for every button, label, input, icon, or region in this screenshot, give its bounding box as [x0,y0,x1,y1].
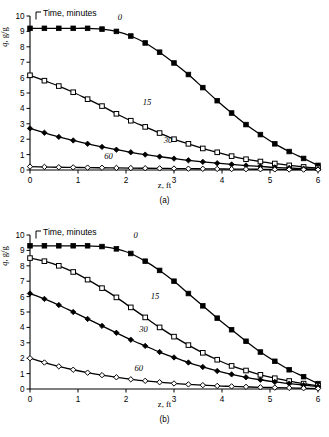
y-tick-label-a: 9 [20,27,25,36]
data-point-30-b [171,355,176,360]
legend-title-b: Time, minutes [43,227,97,237]
data-point-0-b [71,243,76,248]
data-point-60-a [56,165,61,170]
data-point-30-a [143,152,148,157]
data-point-0-b [301,374,306,379]
data-point-0-a [71,26,76,31]
data-point-0-a [273,142,278,147]
data-point-15-b [186,343,191,348]
x-axis-label-a: z, ft [0,180,329,190]
data-point-30-a [114,147,119,152]
panel-tag-b: (b) [0,415,329,424]
y-tick-label-b: 4 [20,323,25,332]
data-point-30-a [200,159,205,164]
figure-root: 0123456789100123456Time, minutes0153060 … [0,0,329,437]
data-point-0-a [172,61,177,66]
data-point-0-b [143,259,148,264]
y-axis-units-b: , g/g [0,246,9,261]
series-label-60-a: 60 [104,151,113,161]
data-point-15-b [229,364,234,369]
data-point-15-a [186,142,191,147]
data-point-0-a [287,149,292,154]
y-tick-label-b: 3 [20,339,25,348]
data-point-15-a [172,137,177,142]
y-tick-label-b: 9 [20,246,25,255]
y-axis-symbol-a: q [0,43,9,47]
series-0-b [28,243,321,385]
data-point-60-b [287,385,292,390]
panel-tag-a: (a) [0,196,329,205]
data-point-0-b [114,247,119,252]
data-point-0-b [229,327,234,332]
y-tick-label-a: 3 [20,120,25,129]
y-tick-label-b: 8 [20,262,25,271]
y-tick-label-b: 10 [15,231,25,240]
y-tick-label-a: 10 [15,12,25,21]
data-point-0-a [143,41,148,46]
data-point-30-b [56,302,61,307]
data-point-0-a [186,72,191,77]
data-point-0-a [258,132,263,137]
y-tick-label-b: 6 [20,293,25,302]
y-tick-label-a: 7 [20,58,25,67]
data-point-0-b [85,243,90,248]
data-point-15-a [215,150,220,155]
data-point-0-b [215,316,220,321]
data-point-60-b [56,364,61,369]
data-point-15-a [42,78,47,83]
data-point-30-b [200,364,205,369]
data-point-60-b [99,372,104,377]
data-point-0-a [28,26,33,31]
y-tick-label-a: 6 [20,74,25,83]
series-label-0-a: 0 [118,12,123,22]
data-point-30-b [157,349,162,354]
data-point-15-b [28,256,33,261]
data-point-60-a [71,165,76,170]
data-point-0-a [57,26,62,31]
y-tick-label-a: 5 [20,89,25,98]
data-point-0-a [301,156,306,161]
y-tick-label-b: 1 [20,370,25,379]
data-point-0-a [42,26,47,31]
data-point-60-b [85,370,90,375]
data-point-15-b [85,277,90,282]
data-point-0-b [57,243,62,248]
data-point-15-b [157,325,162,330]
legend-title-a: Time, minutes [43,8,97,18]
data-point-0-b [172,279,177,284]
data-point-15-a [71,90,76,95]
data-point-30-b [243,375,248,380]
y-tick-label-a: 8 [20,43,25,52]
data-point-30-b [186,360,191,365]
data-point-30-a [128,150,133,155]
data-point-15-b [172,334,177,339]
data-point-0-b [157,268,162,273]
data-point-60-b [200,382,205,387]
data-point-15-b [215,357,220,362]
data-point-60-a [243,166,248,171]
data-point-60-b [215,383,220,388]
data-point-30-b [42,296,47,301]
plot-area-a: 0123456789100123456Time, minutes0153060 … [0,0,329,196]
data-point-15-b [71,270,76,275]
data-point-15-a [229,154,234,159]
data-point-30-b [114,330,119,335]
data-point-0-b [42,243,47,248]
y-tick-label-b: 2 [20,354,25,363]
data-point-15-a [85,97,90,102]
data-point-0-b [258,350,263,355]
data-point-15-b [244,368,249,373]
data-point-30-a [27,126,32,131]
data-point-0-b [273,359,278,364]
data-point-0-a [244,122,249,127]
data-point-15-a [244,157,249,162]
data-point-60-b [71,367,76,372]
data-point-0-b [287,367,292,372]
y-axis-symbol-b: q [0,262,9,266]
data-point-0-b [244,339,249,344]
data-point-30-a [99,144,104,149]
data-point-0-a [215,98,220,103]
data-point-15-a [57,84,62,89]
y-axis-units-a: , g/g [0,27,9,42]
plot-svg-b: 0123456789100123456Time, minutes0153060 [0,219,329,415]
